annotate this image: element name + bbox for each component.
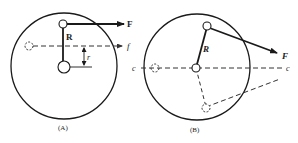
label-r-radius-b: R [202,44,209,54]
label-c-right-b: c [286,64,290,73]
hub-a [58,61,70,73]
label-force-b: F [281,51,288,61]
diagram-canvas: R F f r (A) R F c c (B) [0,0,298,143]
label-c-left-b: c [132,64,136,73]
panel-a: R F f r (A) [11,13,133,132]
lower-crank-dashed-b [196,68,206,107]
force-arrow-b [207,27,277,53]
label-force-line-a: f [127,41,131,51]
crank-pin-a [59,20,67,28]
panel-b: R F c c (B) [132,14,290,134]
label-r-radius-a: R [66,32,73,42]
caption-b: (B) [190,126,200,134]
pivot-left-dashed-a [25,42,33,50]
caption-a: (A) [58,124,68,132]
crank-pin-b [203,22,211,30]
hub-b [192,64,200,72]
crank-pin-lower-dashed-b [202,104,210,112]
label-force-a: F [127,19,133,29]
label-offset-a: r [87,53,91,62]
